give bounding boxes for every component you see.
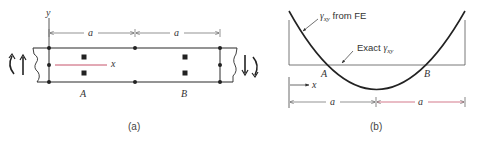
panel-b [289, 11, 465, 108]
dimension-line-b [290, 97, 465, 107]
fe-leader [303, 19, 318, 31]
x-axis-label: x [111, 59, 115, 69]
y-axis-label: y [46, 8, 50, 18]
caption-a: (a) [128, 122, 140, 132]
dimension-label-b-1: a [330, 97, 335, 107]
point-label-b-b: B [424, 69, 430, 79]
exact-leader [342, 51, 353, 63]
dimension-label-a-1: a [88, 28, 93, 38]
point-label-a-b: A [321, 69, 327, 79]
fe-annotation: γxy from FE [320, 11, 366, 23]
moment-arrow-right-icon [242, 55, 258, 77]
caption-b: (b) [370, 122, 382, 132]
point-label-a: A [80, 89, 86, 99]
dimension-label-a-2: a [174, 28, 179, 38]
figure: y a a x A B (a) γxy from FE Exact γxy A … [0, 0, 477, 141]
dimension-line-a [49, 29, 220, 37]
point-label-b: B [181, 89, 187, 99]
moment-arrow-left-icon [9, 54, 26, 75]
figure-svg [0, 0, 477, 141]
dimension-label-b-2: a [418, 97, 423, 107]
x-axis-b [289, 77, 309, 108]
fe-annotation-text: from FE [330, 10, 366, 21]
panel-a [9, 18, 258, 84]
x-axis-label-b: x [312, 80, 316, 90]
exact-annotation-text: Exact [357, 42, 383, 53]
exact-annotation: Exact γxy [357, 43, 393, 55]
gamma-subscript: xy [387, 47, 393, 55]
